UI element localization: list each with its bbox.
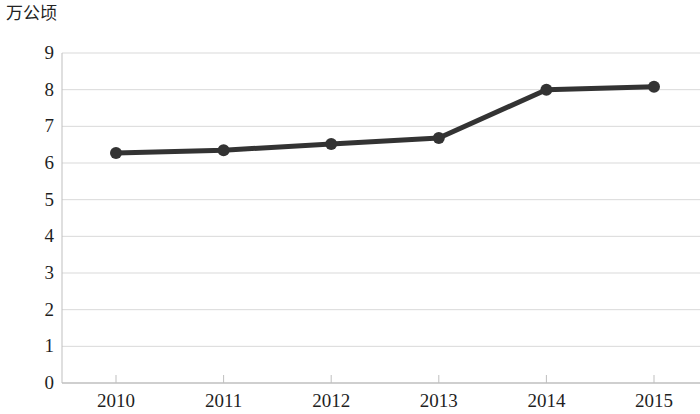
x-axis-tick-label: 2011 (189, 391, 259, 410)
data-point-marker (648, 81, 660, 93)
y-axis-tick-label: 0 (28, 373, 54, 392)
y-axis-tick-label: 8 (28, 80, 54, 99)
data-point-marker (110, 147, 122, 159)
x-axis-tick-label: 2015 (619, 391, 689, 410)
x-axis-tick-label: 2014 (511, 391, 581, 410)
x-axis-tick-label: 2013 (404, 391, 474, 410)
y-axis-tick-label: 9 (28, 43, 54, 62)
series-line (116, 87, 654, 153)
chart-plot-area (0, 0, 700, 414)
gridlines (62, 53, 700, 383)
y-axis-tick-label: 2 (28, 300, 54, 319)
x-axis-ticks (116, 375, 654, 383)
line-chart: 万公顷 0123456789 201020112012201320142015 (0, 0, 700, 414)
x-axis-tick-label: 2010 (81, 391, 151, 410)
y-axis-tick-label: 1 (28, 336, 54, 355)
data-point-marker (325, 138, 337, 150)
data-point-marker (540, 84, 552, 96)
y-axis-tick-label: 7 (28, 116, 54, 135)
x-axis-tick-label: 2012 (296, 391, 366, 410)
series-markers (110, 81, 660, 159)
y-axis-tick-label: 4 (28, 226, 54, 245)
data-point-marker (433, 132, 445, 144)
y-axis-tick-label: 3 (28, 263, 54, 282)
series-polyline (116, 87, 654, 153)
y-axis-tick-label: 6 (28, 153, 54, 172)
data-point-marker (218, 144, 230, 156)
y-axis-tick-label: 5 (28, 190, 54, 209)
